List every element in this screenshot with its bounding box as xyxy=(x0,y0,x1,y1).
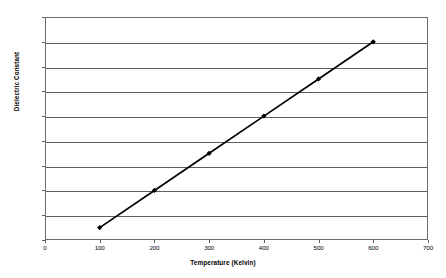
y-axis-title: Dielectric Constant xyxy=(13,22,20,142)
plot-area xyxy=(45,17,428,240)
x-axis-tick-mark xyxy=(319,240,320,243)
gridline-horizontal xyxy=(46,167,427,168)
y-axis-tick-mark xyxy=(42,141,45,142)
x-axis-tick-mark xyxy=(45,240,46,243)
x-axis-tick-label: 600 xyxy=(353,245,393,251)
x-axis-tick-mark xyxy=(373,240,374,243)
x-axis-tick-label: 300 xyxy=(189,245,229,251)
x-axis-tick-label: 500 xyxy=(299,245,339,251)
gridline-horizontal xyxy=(46,117,427,118)
x-axis-tick-label: 400 xyxy=(244,245,284,251)
y-axis-tick-mark xyxy=(42,166,45,167)
y-axis-tick-mark xyxy=(42,17,45,18)
gridline-horizontal xyxy=(46,216,427,217)
x-axis-tick-label: 200 xyxy=(134,245,174,251)
dielectric-constant-chart: Dielectric Constant Temperature (Kelvin)… xyxy=(0,0,446,278)
x-axis-title: Temperature (Kelvin) xyxy=(0,259,446,267)
y-axis-tick-mark xyxy=(42,215,45,216)
gridline-horizontal xyxy=(46,43,427,44)
y-axis-tick-mark xyxy=(42,190,45,191)
gridline-horizontal xyxy=(46,142,427,143)
x-axis-tick-label: 100 xyxy=(80,245,120,251)
y-axis-tick-mark xyxy=(42,91,45,92)
y-axis-tick-mark xyxy=(42,67,45,68)
x-axis-tick-label: 700 xyxy=(408,245,446,251)
x-axis-tick-mark xyxy=(264,240,265,243)
gridline-horizontal xyxy=(46,191,427,192)
x-axis-tick-mark xyxy=(209,240,210,243)
x-axis-tick-mark xyxy=(428,240,429,243)
y-axis-tick-mark xyxy=(42,42,45,43)
gridline-horizontal xyxy=(46,68,427,69)
x-axis-tick-mark xyxy=(154,240,155,243)
y-axis-tick-mark xyxy=(42,116,45,117)
x-axis-tick-mark xyxy=(100,240,101,243)
x-axis-tick-label: 0 xyxy=(25,245,65,251)
gridline-horizontal xyxy=(46,92,427,93)
